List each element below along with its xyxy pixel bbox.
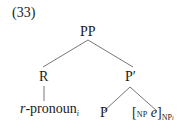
node-p-bar: P′ xyxy=(125,70,136,84)
index-i: i xyxy=(77,109,79,118)
leaf-empty-np: [NP e]NPi xyxy=(132,106,174,125)
node-p: P xyxy=(100,106,108,120)
pronoun-word: -pronoun xyxy=(25,101,76,116)
bar-mark: ′ xyxy=(133,69,136,84)
np-label-open: NP xyxy=(137,110,148,119)
np-index: i xyxy=(172,115,174,121)
branch-pp-pbar xyxy=(88,40,133,67)
branch-pp-r xyxy=(43,40,88,67)
example-number: (33) xyxy=(12,6,35,20)
np-label-close: NP xyxy=(162,113,172,122)
node-p-bar-label: P xyxy=(125,69,133,84)
leaf-r-pronoun: r-pronouni xyxy=(20,102,79,121)
node-pp: PP xyxy=(80,25,96,39)
node-r: R xyxy=(39,70,48,84)
